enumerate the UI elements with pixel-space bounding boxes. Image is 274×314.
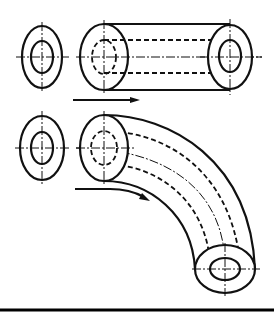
bend-bore-inner-hidden [104, 164, 210, 262]
drawing-svg [0, 0, 274, 314]
top-ring-profile [16, 22, 69, 92]
bend-inner-edge [104, 181, 195, 269]
bottom-curved-tube [76, 111, 260, 296]
arrow-head-icon [130, 97, 140, 103]
top-straight-tube [76, 19, 262, 95]
bottom-ring-profile [15, 111, 70, 186]
straight-arrow [73, 97, 140, 103]
curved-arrow [75, 189, 150, 201]
arrow-shaft [75, 189, 144, 197]
technical-drawing [0, 0, 274, 314]
